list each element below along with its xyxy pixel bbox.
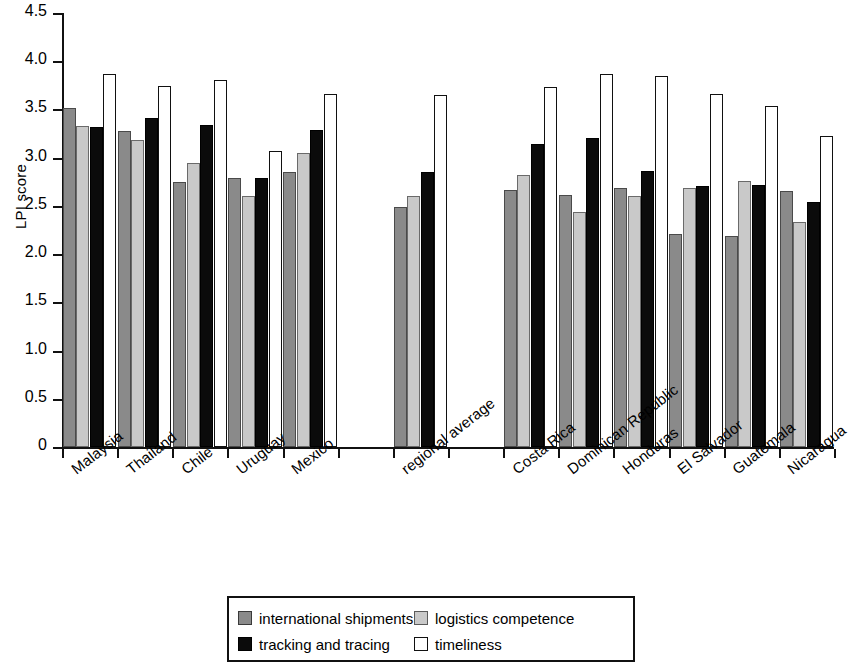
bar — [228, 178, 241, 447]
bar — [158, 86, 171, 447]
bar — [394, 207, 407, 447]
y-tick: 4.5 — [53, 13, 62, 15]
bar — [214, 80, 227, 447]
bar — [310, 130, 323, 447]
legend-swatch-icon — [238, 637, 252, 651]
x-tick — [227, 449, 229, 458]
bar — [765, 106, 778, 447]
bar — [283, 172, 296, 447]
bar — [421, 172, 434, 447]
legend-swatch-icon — [414, 611, 428, 625]
legend: international shipmentslogistics compete… — [227, 596, 635, 662]
y-tick-label: 4.0 — [25, 50, 47, 68]
legend-item: international shipments — [238, 610, 414, 627]
bar — [807, 202, 820, 447]
y-tick: 3.0 — [53, 158, 62, 160]
bar-group — [725, 13, 779, 447]
legend-label: timeliness — [435, 636, 502, 653]
y-tick: 1.5 — [53, 302, 62, 304]
x-tick — [62, 449, 64, 458]
bar — [63, 108, 76, 447]
y-tick: 2.0 — [53, 254, 62, 256]
bar-group — [669, 13, 723, 447]
bar — [269, 151, 282, 447]
y-tick-label: 4.5 — [25, 2, 47, 20]
x-tick — [724, 449, 726, 458]
bar — [600, 74, 613, 447]
legend-swatch-icon — [414, 637, 428, 651]
bar — [559, 195, 572, 447]
x-tick — [779, 449, 781, 458]
y-tick-label: 3.0 — [25, 147, 47, 165]
bar — [531, 144, 544, 447]
bar-group — [780, 13, 834, 447]
bar — [407, 196, 420, 447]
bar-group — [173, 13, 227, 447]
bar — [504, 190, 517, 447]
bar-group — [228, 13, 282, 447]
bar — [780, 191, 793, 447]
bar — [573, 212, 586, 447]
bar — [200, 125, 213, 447]
x-tick — [669, 449, 671, 458]
plot-area: 00.51.01.52.02.53.03.54.04.5 — [62, 13, 834, 447]
legend-item: tracking and tracing — [238, 636, 414, 653]
y-tick: 0 — [53, 447, 62, 449]
x-tick — [338, 449, 340, 458]
bar — [297, 153, 310, 447]
bar — [434, 95, 447, 447]
bar — [586, 138, 599, 447]
bar — [793, 222, 806, 447]
y-tick: 2.5 — [53, 206, 62, 208]
y-tick-label: 3.5 — [25, 98, 47, 116]
y-tick-label: 1.0 — [25, 340, 47, 358]
bar — [752, 185, 765, 447]
bar-group — [394, 13, 448, 447]
x-tick — [117, 449, 119, 458]
legend-swatch-icon — [238, 611, 252, 625]
legend-label: logistics competence — [435, 610, 574, 627]
bar-group — [118, 13, 172, 447]
y-tick-label: 2.5 — [25, 195, 47, 213]
x-tick — [172, 449, 174, 458]
y-tick-label: 0.5 — [25, 388, 47, 406]
bar — [173, 182, 186, 447]
x-tick — [283, 449, 285, 458]
bar — [669, 234, 682, 447]
bar — [103, 74, 116, 447]
bar-group — [614, 13, 668, 447]
bar — [187, 163, 200, 447]
bar — [544, 87, 557, 447]
bar — [118, 131, 131, 447]
bar — [131, 140, 144, 447]
bar — [242, 196, 255, 447]
bar — [145, 118, 158, 447]
y-tick-label: 1.5 — [25, 291, 47, 309]
bar-group — [559, 13, 613, 447]
x-tick — [393, 449, 395, 458]
bar-group — [283, 13, 337, 447]
x-tick — [503, 449, 505, 458]
bar — [324, 94, 337, 447]
bar — [683, 188, 696, 447]
bar — [517, 175, 530, 447]
legend-label: tracking and tracing — [259, 636, 390, 653]
y-tick-label: 0 — [38, 436, 47, 454]
bar — [710, 94, 723, 447]
bar — [255, 178, 268, 447]
bar — [76, 126, 89, 447]
y-tick-label: 2.0 — [25, 243, 47, 261]
bar — [90, 127, 103, 447]
bar — [725, 236, 738, 447]
legend-item: timeliness — [414, 636, 630, 653]
x-tick — [834, 449, 836, 458]
x-tick — [558, 449, 560, 458]
y-tick: 3.5 — [53, 109, 62, 111]
y-tick: 4.0 — [53, 61, 62, 63]
x-tick — [613, 449, 615, 458]
legend-label: international shipments — [259, 610, 413, 627]
legend-item: logistics competence — [414, 610, 630, 627]
bar — [696, 186, 709, 447]
y-tick: 0.5 — [53, 399, 62, 401]
